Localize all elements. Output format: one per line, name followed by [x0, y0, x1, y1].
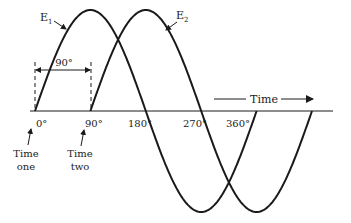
- time-direction: Time: [214, 93, 313, 106]
- svg-text:two: two: [71, 161, 90, 172]
- tick-90: 90°: [85, 118, 103, 129]
- degree-tick-labels: 0° 90° 180° 270° 360°: [36, 118, 250, 129]
- time-arrow-label: Time: [250, 93, 278, 106]
- phase-diagram: E1 E2 90° Time 0° 90° 180° 270° 360°: [0, 0, 351, 223]
- phase-diagram-canvas: E1 E2 90° Time 0° 90° 180° 270° 360°: [0, 0, 351, 223]
- e2-pointer-arrow: [166, 22, 177, 30]
- svg-text:E2: E2: [176, 9, 189, 24]
- svg-text:one: one: [17, 161, 35, 172]
- e1-label: E1: [40, 11, 66, 29]
- tick-180: 180°: [128, 118, 152, 129]
- time-two-marker: Time two: [67, 130, 92, 172]
- e2-label: E2: [166, 9, 189, 30]
- svg-text:Time: Time: [13, 148, 38, 159]
- e1-pointer-arrow: [54, 21, 66, 29]
- time-one-marker: Time one: [13, 129, 38, 172]
- phase-dimension-label: 90°: [55, 57, 73, 68]
- svg-text:E1: E1: [40, 11, 53, 26]
- tick-0: 0°: [36, 118, 47, 129]
- tick-360: 360°: [226, 118, 250, 129]
- phase-dimension: 90°: [35, 57, 91, 108]
- tick-270: 270°: [183, 118, 207, 129]
- svg-text:Time: Time: [67, 148, 92, 159]
